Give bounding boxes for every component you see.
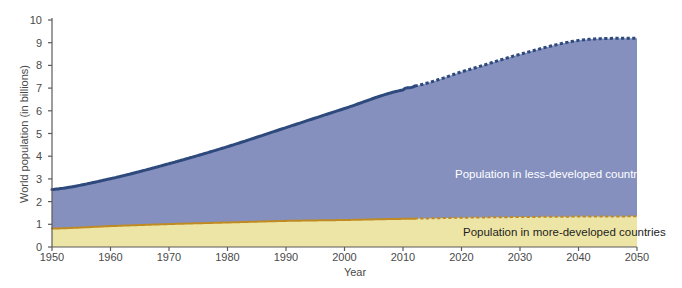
x-tick-label: 2030 <box>490 251 550 263</box>
x-tick-label: 2050 <box>607 251 667 263</box>
x-tick-label: 2000 <box>315 251 375 263</box>
series-label-more-developed: Population in more-developed countries <box>463 226 666 238</box>
x-tick-label: 1970 <box>139 251 199 263</box>
area-less-developed <box>52 38 637 247</box>
plot-area <box>0 0 682 288</box>
population-area-chart: World population (in billions) 012345678… <box>0 0 682 288</box>
x-tick-label: 1960 <box>81 251 141 263</box>
series-label-less-developed: Population in less-developed countries <box>455 168 652 180</box>
x-tick-label: 2040 <box>549 251 609 263</box>
x-tick-label: 1980 <box>198 251 258 263</box>
x-tick-label: 1990 <box>256 251 316 263</box>
x-tick-label: 2010 <box>373 251 433 263</box>
x-tick-label: 1950 <box>22 251 82 263</box>
x-tick-label: 2020 <box>432 251 492 263</box>
x-axis-title: Year <box>315 266 395 278</box>
